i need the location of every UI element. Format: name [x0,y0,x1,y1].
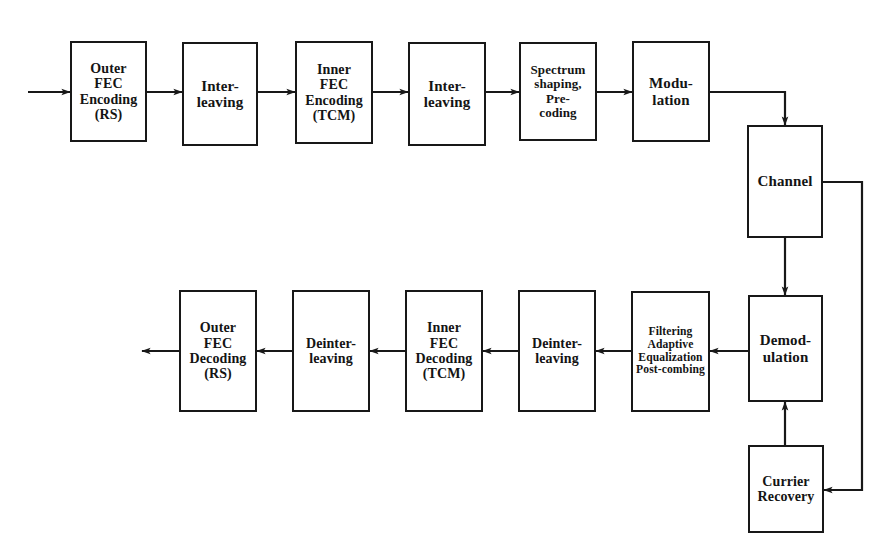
block-label-deinterleaving-2: Deinter- leaving [305,336,357,367]
block-interleaving-1: Inter- leaving [182,42,258,146]
block-label-deinterleaving-1: Deinter- leaving [531,336,583,367]
block-outer-fec-decoding: Outer FEC Decoding (RS) [179,290,257,412]
block-label-inner-fec-decoding: Inner FEC Decoding (TCM) [415,320,474,382]
block-diagram: Outer FEC Encoding (RS)Inter- leavingInn… [0,0,896,551]
block-label-spectrum-shaping-precoding: Spectrum shaping, Pre- coding [530,63,587,120]
connector-channel-to-currier-recovery [823,182,862,490]
block-label-interleaving-1: Inter- leaving [196,78,245,111]
block-inner-fec-decoding: Inner FEC Decoding (TCM) [405,290,483,412]
block-label-modulation: Modu- lation [648,75,694,108]
block-outer-fec-encoding: Outer FEC Encoding (RS) [70,41,147,142]
block-label-currier-recovery: Currier Recovery [757,474,816,505]
block-filtering-equalization: Filtering Adaptive Equalization Post-com… [631,291,710,412]
block-label-outer-fec-encoding: Outer FEC Encoding (RS) [79,61,139,123]
block-inner-fec-encoding: Inner FEC Encoding (TCM) [295,41,373,144]
block-label-filtering-equalization: Filtering Adaptive Equalization Post-com… [635,326,706,377]
block-modulation: Modu- lation [632,41,710,142]
block-demodulation: Demod- ulation [748,295,823,402]
block-deinterleaving-2: Deinter- leaving [292,290,370,412]
block-currier-recovery: Currier Recovery [748,445,824,533]
block-spectrum-shaping-precoding: Spectrum shaping, Pre- coding [519,42,597,141]
block-label-interleaving-2: Inter- leaving [423,78,472,111]
block-label-channel: Channel [757,173,814,190]
block-deinterleaving-1: Deinter- leaving [518,290,596,412]
connector-modulation-to-channel [710,92,785,125]
block-label-inner-fec-encoding: Inner FEC Encoding (TCM) [304,62,364,124]
block-interleaving-2: Inter- leaving [408,42,486,146]
block-label-outer-fec-decoding: Outer FEC Decoding (RS) [189,320,248,382]
block-channel: Channel [747,125,823,238]
block-label-demodulation: Demod- ulation [759,332,812,365]
